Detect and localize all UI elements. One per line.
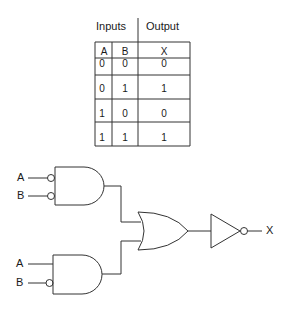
and-gate-top-icon <box>28 167 141 222</box>
input-label-b-bottom: B <box>16 276 23 288</box>
input-label-a-bottom: A <box>16 257 23 269</box>
output-label-x: X <box>266 224 273 236</box>
input-label-a-top: A <box>17 171 24 183</box>
inverter-bubble-icon <box>46 280 53 287</box>
inverter-bubble-icon <box>48 175 55 182</box>
inverter-bubble-icon <box>48 193 55 200</box>
not-gate-icon <box>211 214 262 248</box>
diagram-lines <box>0 0 285 317</box>
and-gate-bottom-icon <box>28 241 141 294</box>
input-label-b-top: B <box>17 189 24 201</box>
or-gate-icon <box>138 212 211 250</box>
inverter-bubble-icon <box>241 228 248 235</box>
